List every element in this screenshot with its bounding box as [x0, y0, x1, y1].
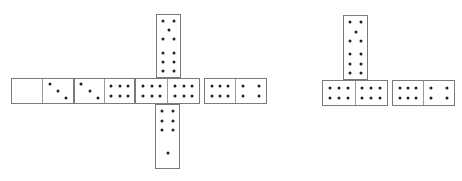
pip-dot-icon [150, 95, 153, 98]
pip-dot-icon [379, 97, 382, 100]
pip-dot-icon [150, 84, 153, 87]
pip-dot-icon [171, 128, 174, 131]
pip-dot-icon [258, 95, 261, 98]
domino-half-6 [323, 81, 355, 105]
domino-half-3 [42, 79, 73, 103]
pip-dot-icon [110, 84, 113, 87]
domino-tile-5-6[interactable] [343, 15, 368, 80]
pip-dot-icon [370, 86, 373, 89]
domino-half-6 [104, 79, 134, 103]
domino-tile-6-1[interactable] [155, 104, 180, 169]
pip-dot-icon [110, 95, 113, 98]
pip-dot-icon [359, 53, 362, 56]
domino-half-6 [205, 79, 235, 103]
pip-dot-icon [349, 21, 352, 24]
pip-dot-icon [349, 39, 352, 42]
pip-dot-icon [407, 86, 410, 89]
pip-dot-icon [349, 62, 352, 65]
pip-dot-icon [337, 86, 340, 89]
pip-dot-icon [65, 97, 68, 100]
pip-dot-icon [172, 51, 175, 54]
domino-half-0 [12, 79, 42, 103]
pip-dot-icon [359, 39, 362, 42]
pip-dot-icon [173, 95, 176, 98]
pip-dot-icon [182, 95, 185, 98]
pip-dot-icon [171, 110, 174, 113]
pip-dot-icon [359, 71, 362, 74]
pip-dot-icon [241, 95, 244, 98]
pip-dot-icon [162, 60, 165, 63]
domino-half-1 [156, 136, 179, 168]
pip-dot-icon [161, 119, 164, 122]
pip-dot-icon [354, 30, 357, 33]
pip-dot-icon [210, 84, 213, 87]
pip-dot-icon [258, 84, 261, 87]
pip-dot-icon [227, 95, 230, 98]
pip-dot-icon [210, 95, 213, 98]
pip-dot-icon [126, 84, 129, 87]
pip-dot-icon [182, 84, 185, 87]
pip-dot-icon [346, 97, 349, 100]
domino-tile-6-4[interactable] [204, 78, 267, 104]
domino-tile-6-4[interactable] [392, 80, 455, 106]
pip-dot-icon [370, 97, 373, 100]
pip-dot-icon [80, 82, 83, 85]
pip-dot-icon [398, 97, 401, 100]
pip-dot-icon [118, 95, 121, 98]
pip-dot-icon [429, 86, 432, 89]
pip-dot-icon [173, 84, 176, 87]
pip-dot-icon [172, 69, 175, 72]
domino-tile-6-6[interactable] [135, 78, 200, 104]
domino-half-6 [355, 81, 388, 105]
pip-dot-icon [162, 51, 165, 54]
pip-dot-icon [349, 71, 352, 74]
domino-half-4 [235, 79, 266, 103]
pip-dot-icon [141, 95, 144, 98]
pip-dot-icon [407, 97, 410, 100]
domino-half-4 [423, 81, 454, 105]
pip-dot-icon [328, 97, 331, 100]
pip-dot-icon [161, 128, 164, 131]
pip-dot-icon [57, 90, 60, 93]
pip-dot-icon [161, 110, 164, 113]
pip-dot-icon [88, 90, 91, 93]
domino-tile-5-6[interactable] [156, 14, 181, 78]
pip-dot-icon [446, 86, 449, 89]
pip-dot-icon [166, 151, 169, 154]
pip-dot-icon [162, 69, 165, 72]
domino-half-6 [393, 81, 423, 105]
domino-half-6 [136, 79, 167, 103]
pip-dot-icon [141, 84, 144, 87]
domino-tile-0-3[interactable] [11, 78, 74, 104]
pip-dot-icon [227, 84, 230, 87]
pip-dot-icon [162, 20, 165, 23]
domino-tile-6-6[interactable] [322, 80, 388, 106]
pip-dot-icon [337, 97, 340, 100]
pip-dot-icon [415, 86, 418, 89]
pip-dot-icon [172, 20, 175, 23]
pip-dot-icon [359, 62, 362, 65]
domino-tile-3-6[interactable] [74, 78, 135, 104]
pip-dot-icon [379, 86, 382, 89]
pip-dot-icon [219, 84, 222, 87]
pip-dot-icon [118, 84, 121, 87]
pip-dot-icon [241, 84, 244, 87]
pip-dot-icon [191, 95, 194, 98]
pip-dot-icon [167, 29, 170, 32]
pip-dot-icon [159, 84, 162, 87]
pip-dot-icon [172, 38, 175, 41]
domino-half-6 [344, 47, 367, 79]
pip-dot-icon [48, 82, 51, 85]
pip-dot-icon [361, 86, 364, 89]
pip-dot-icon [219, 95, 222, 98]
pip-dot-icon [398, 86, 401, 89]
pip-dot-icon [429, 97, 432, 100]
pip-dot-icon [346, 86, 349, 89]
pip-dot-icon [96, 97, 99, 100]
pip-dot-icon [415, 97, 418, 100]
domino-half-6 [157, 46, 180, 78]
pip-dot-icon [361, 97, 364, 100]
pip-dot-icon [172, 60, 175, 63]
pip-dot-icon [328, 86, 331, 89]
pip-dot-icon [191, 84, 194, 87]
